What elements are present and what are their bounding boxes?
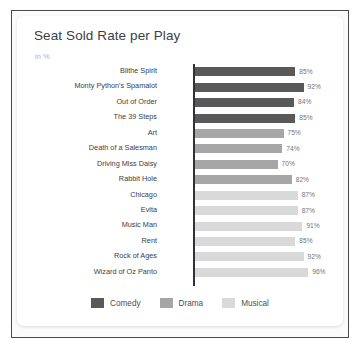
bar[interactable] <box>195 114 295 123</box>
bar-row: Monty Python's Spamalot92% <box>17 79 343 94</box>
bar-track: 82% <box>193 172 343 187</box>
legend-item-drama[interactable]: Drama <box>160 298 204 308</box>
bar[interactable] <box>195 191 298 200</box>
bar[interactable] <box>195 206 298 215</box>
bar-row: Blithe Spirit85% <box>17 64 343 79</box>
bar-row: Evita87% <box>17 203 343 218</box>
bar-row: Out of Order84% <box>17 95 343 110</box>
bar[interactable] <box>195 222 302 231</box>
bar-row: The 39 Steps85% <box>17 110 343 125</box>
bar-value-label: 82% <box>296 176 309 184</box>
bar-category-label: Rent <box>17 236 157 245</box>
chart-outer-frame: Seat Sold Rate per Play in % Blithe Spir… <box>11 10 349 338</box>
bar-value-label: 84% <box>298 98 311 106</box>
legend-item-musical[interactable]: Musical <box>222 298 269 308</box>
bar[interactable] <box>195 67 295 76</box>
bar-track: 85% <box>193 234 343 249</box>
bar[interactable] <box>195 83 304 92</box>
bar-value-label: 85% <box>299 114 312 122</box>
bar-value-label: 75% <box>288 129 301 137</box>
bar-value-label: 87% <box>302 191 315 199</box>
bar-category-label: Death of a Salesman <box>17 143 157 152</box>
bar-track: 96% <box>193 265 343 280</box>
bar-row: Wizard of Oz Panto96% <box>17 265 343 280</box>
bar-value-label: 92% <box>308 253 321 261</box>
bar-row: Chicago87% <box>17 188 343 203</box>
bar-category-label: Rock of Ages <box>17 251 157 260</box>
bar-track: 92% <box>193 79 343 94</box>
bar-track: 74% <box>193 141 343 156</box>
bar-category-label: Wizard of Oz Panto <box>17 267 157 276</box>
bar-value-label: 87% <box>302 207 315 215</box>
bar-track: 91% <box>193 218 343 233</box>
bar[interactable] <box>195 129 284 138</box>
legend-label: Musical <box>241 299 269 308</box>
bar[interactable] <box>195 268 308 277</box>
bar-category-label: Monty Python's Spamalot <box>17 81 157 90</box>
legend-swatch-icon <box>91 298 104 308</box>
bar-value-label: 91% <box>306 222 319 230</box>
bar-track: 87% <box>193 203 343 218</box>
bar-row: Rent85% <box>17 234 343 249</box>
bar[interactable] <box>195 160 278 169</box>
bar-track: 85% <box>193 64 343 79</box>
bar-category-label: Art <box>17 128 157 137</box>
bar-row: Music Man91% <box>17 218 343 233</box>
bar-value-label: 70% <box>282 160 295 168</box>
bar-category-label: Music Man <box>17 220 157 229</box>
bar-value-label: 96% <box>312 268 325 276</box>
bar[interactable] <box>195 175 292 184</box>
bar-value-label: 85% <box>299 68 312 76</box>
chart-title: Seat Sold Rate per Play <box>34 28 180 43</box>
bar-track: 85% <box>193 110 343 125</box>
bar-track: 87% <box>193 188 343 203</box>
bar-category-label: Rabbit Hole <box>17 174 157 183</box>
bar-category-label: Blithe Spirit <box>17 66 157 75</box>
bar-category-label: The 39 Steps <box>17 112 157 121</box>
bar[interactable] <box>195 237 295 246</box>
legend-label: Comedy <box>110 299 141 308</box>
bar-value-label: 92% <box>308 83 321 91</box>
legend-swatch-icon <box>222 298 235 308</box>
legend-item-comedy[interactable]: Comedy <box>91 298 141 308</box>
bar-chart-plot-area: Blithe Spirit85%Monty Python's Spamalot9… <box>17 64 343 286</box>
bar-category-label: Chicago <box>17 190 157 199</box>
bar-track: 92% <box>193 249 343 264</box>
bar-row: Rabbit Hole82% <box>17 172 343 187</box>
bar-rows-container: Blithe Spirit85%Monty Python's Spamalot9… <box>17 64 343 280</box>
bar[interactable] <box>195 98 294 107</box>
bar-row: Rock of Ages92% <box>17 249 343 264</box>
bar[interactable] <box>195 144 282 153</box>
bar-track: 84% <box>193 95 343 110</box>
legend-swatch-icon <box>160 298 173 308</box>
chart-legend: ComedyDramaMusical <box>17 298 343 308</box>
bar-category-label: Driving Miss Daisy <box>17 159 157 168</box>
legend-label: Drama <box>179 299 204 308</box>
bar-value-label: 85% <box>299 237 312 245</box>
bar[interactable] <box>195 252 304 261</box>
chart-subtitle: in % <box>35 52 50 61</box>
bar-track: 75% <box>193 126 343 141</box>
bar-category-label: Out of Order <box>17 97 157 106</box>
bar-row: Death of a Salesman74% <box>17 141 343 156</box>
bar-row: Driving Miss Daisy70% <box>17 157 343 172</box>
bar-track: 70% <box>193 157 343 172</box>
bar-row: Art75% <box>17 126 343 141</box>
bar-category-label: Evita <box>17 205 157 214</box>
chart-card: Seat Sold Rate per Play in % Blithe Spir… <box>17 16 343 326</box>
bar-value-label: 74% <box>286 145 299 153</box>
